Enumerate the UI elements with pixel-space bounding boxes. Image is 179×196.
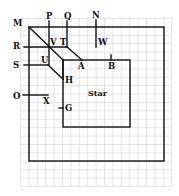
label-t: T [60, 37, 67, 47]
grid-diagram: M P Q N R V T W S U A B H O X G Star [0, 0, 179, 196]
label-o: O [13, 91, 21, 101]
label-u: U [41, 55, 49, 65]
label-m: M [13, 18, 23, 28]
label-g: G [65, 103, 72, 113]
label-n: N [92, 10, 100, 20]
label-q: Q [64, 11, 72, 21]
label-w: W [97, 37, 108, 47]
diagonal-u-h [48, 65, 63, 79]
label-r: R [13, 41, 21, 51]
label-h: H [65, 75, 73, 85]
label-p: P [46, 11, 53, 21]
label-s: S [13, 60, 19, 70]
label-x: X [43, 96, 50, 106]
diagonal-t-a [67, 47, 82, 60]
label-a: A [77, 61, 85, 71]
label-b: B [108, 61, 115, 71]
label-star: Star [88, 88, 108, 98]
label-v: V [49, 37, 57, 47]
